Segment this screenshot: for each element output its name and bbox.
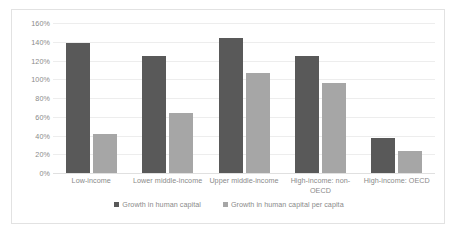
bar[interactable] xyxy=(398,151,422,173)
legend-swatch-icon xyxy=(114,202,119,207)
y-axis-tick: 80% xyxy=(35,94,50,103)
bar-group xyxy=(282,23,358,173)
legend-item[interactable]: Growth in human capital per capita xyxy=(223,200,344,209)
bar-group xyxy=(53,23,129,173)
legend-label: Growth in human capital per capita xyxy=(231,200,344,209)
y-axis-tick: 40% xyxy=(35,131,50,140)
y-axis-tick: 100% xyxy=(31,75,50,84)
bar[interactable] xyxy=(322,83,346,173)
y-axis: 160%140%120%100%80%60%40%20%0% xyxy=(20,23,50,173)
chart-container: 160%140%120%100%80%60%40%20%0% Low-incom… xyxy=(11,9,445,224)
bar[interactable] xyxy=(169,113,193,173)
bar[interactable] xyxy=(295,56,319,173)
bar[interactable] xyxy=(93,134,117,173)
y-axis-tick: 160% xyxy=(31,19,50,28)
bar[interactable] xyxy=(246,73,270,173)
bar[interactable] xyxy=(371,138,395,173)
plot-area: 160%140%120%100%80%60%40%20%0% Low-incom… xyxy=(12,10,446,225)
x-axis-label: High-income: non-OECD xyxy=(282,176,358,195)
y-axis-tick: 0% xyxy=(39,169,50,178)
x-axis-label: Upper middle-income xyxy=(206,176,282,195)
y-axis-tick: 140% xyxy=(31,37,50,46)
bar-group xyxy=(359,23,435,173)
y-axis-tick: 120% xyxy=(31,56,50,65)
y-axis-tick: 20% xyxy=(35,150,50,159)
axis-baseline xyxy=(53,173,435,174)
legend-label: Growth in human capital xyxy=(122,200,201,209)
legend-swatch-icon xyxy=(223,202,228,207)
y-axis-tick: 60% xyxy=(35,112,50,121)
bar-group xyxy=(129,23,205,173)
x-axis-label: Low-income xyxy=(53,176,129,195)
x-axis-labels: Low-incomeLower middle-incomeUpper middl… xyxy=(53,176,435,195)
bar-groups xyxy=(53,23,435,173)
x-axis-label: Lower middle-income xyxy=(129,176,205,195)
bar[interactable] xyxy=(219,38,243,173)
bar-group xyxy=(206,23,282,173)
bar[interactable] xyxy=(66,43,90,173)
x-axis-label: High-income: OECD xyxy=(359,176,435,195)
chart-legend: Growth in human capitalGrowth in human c… xyxy=(12,200,446,209)
legend-item[interactable]: Growth in human capital xyxy=(114,200,201,209)
bar[interactable] xyxy=(142,56,166,173)
